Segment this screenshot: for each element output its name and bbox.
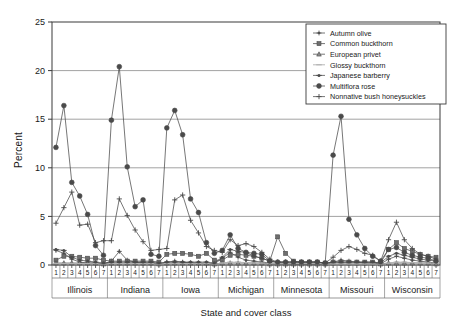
cover-class-label: 7: [379, 269, 383, 276]
cover-class-label: 1: [54, 269, 58, 276]
cover-class-label: 5: [252, 269, 256, 276]
cover-class-label: 2: [228, 269, 232, 276]
legend: Autumn oliveCommon buckthornEuropean pri…: [306, 24, 446, 104]
cover-class-label: 5: [418, 269, 422, 276]
cover-class-label: 1: [165, 269, 169, 276]
x-axis-title: State and cover class: [201, 307, 292, 318]
cover-class-label: 5: [86, 269, 90, 276]
cover-class-label: 4: [300, 269, 304, 276]
y-tick-label: 15: [35, 114, 45, 124]
cover-class-label: 3: [347, 269, 351, 276]
cover-class-label: 6: [94, 269, 98, 276]
cover-class-label: 6: [371, 269, 375, 276]
cover-class-label: 4: [355, 269, 359, 276]
cover-class-label: 2: [339, 269, 343, 276]
state-label: Indiana: [120, 285, 150, 295]
cover-class-label: 3: [403, 269, 407, 276]
cover-class-label: 7: [268, 269, 272, 276]
state-label: Illinois: [67, 285, 93, 295]
cover-class-label: 7: [434, 269, 438, 276]
cover-class-label: 3: [125, 269, 129, 276]
cover-class-label: 1: [387, 269, 391, 276]
line-chart-canvas: Percent 0510152025 123456712345671234567…: [0, 0, 459, 329]
chart-figure: Percent 0510152025 123456712345671234567…: [0, 0, 459, 329]
cover-class-label: 2: [117, 269, 121, 276]
cover-class-label: 3: [70, 269, 74, 276]
cover-class-label: 4: [410, 269, 414, 276]
cover-class-label: 6: [205, 269, 209, 276]
cover-class-label: 4: [189, 269, 193, 276]
cover-class-label: 6: [315, 269, 319, 276]
cover-class-label: 6: [149, 269, 153, 276]
cover-class-label: 2: [395, 269, 399, 276]
cover-class-label: 2: [173, 269, 177, 276]
state-label: Iowa: [181, 285, 200, 295]
cover-class-label: 5: [363, 269, 367, 276]
cover-class-label: 4: [133, 269, 137, 276]
cover-class-label: 5: [141, 269, 145, 276]
y-tick-label: 5: [40, 212, 45, 222]
cover-class-label: 1: [331, 269, 335, 276]
cover-class-label: 1: [220, 269, 224, 276]
cover-class-label: 7: [157, 269, 161, 276]
cover-class-label: 6: [426, 269, 430, 276]
legend-label: Nonnative bush honeysuckles: [330, 92, 426, 101]
legend-label: Multiflora rose: [330, 82, 375, 91]
cover-class-label: 3: [292, 269, 296, 276]
y-tick-label: 20: [35, 66, 45, 76]
y-tick-label: 10: [35, 163, 45, 173]
legend-label: Japanese barberry: [330, 71, 390, 80]
state-label: Michigan: [228, 285, 264, 295]
state-label: Missouri: [340, 285, 374, 295]
y-tick-label: 25: [35, 17, 45, 27]
cover-class-label: 3: [236, 269, 240, 276]
cover-class-label: 1: [276, 269, 280, 276]
cover-class-label: 7: [323, 269, 327, 276]
cover-class-label: 3: [181, 269, 185, 276]
cover-class-label: 2: [284, 269, 288, 276]
state-label: Wisconsin: [392, 285, 433, 295]
cover-class-label: 4: [78, 269, 82, 276]
legend-label: Glossy buckthorn: [330, 61, 386, 70]
legend-item-nonnative-bush-honeysuckles: Nonnative bush honeysuckles: [313, 92, 426, 101]
legend-label: European privet: [330, 50, 381, 59]
y-axis-title: Percent: [13, 132, 24, 168]
state-label: Minnesota: [281, 285, 323, 295]
cover-class-label: 7: [213, 269, 217, 276]
cover-class-label: 5: [308, 269, 312, 276]
legend-label: Autumn olive: [330, 29, 372, 38]
cover-class-label: 2: [62, 269, 66, 276]
cover-class-label: 4: [244, 269, 248, 276]
cover-class-label: 7: [102, 269, 106, 276]
cover-class-label: 6: [260, 269, 264, 276]
legend-label: Common buckthorn: [330, 39, 393, 48]
y-tick-label: 0: [40, 260, 45, 270]
cover-class-label: 5: [197, 269, 201, 276]
cover-class-label: 1: [110, 269, 114, 276]
